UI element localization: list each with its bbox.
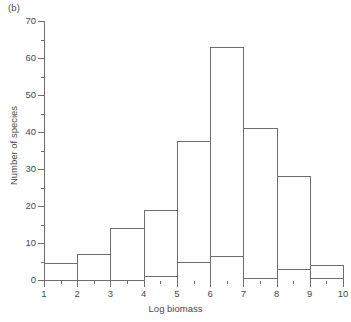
- x-tick-label-6: 6: [198, 288, 222, 299]
- y-tick-50: [38, 95, 44, 96]
- x-tick-label-5: 5: [165, 288, 189, 299]
- x-tick-label-1: 1: [32, 288, 56, 299]
- y-axis-line: [44, 21, 45, 281]
- bar-3-4: [110, 228, 144, 281]
- x-tick-label-10: 10: [331, 288, 351, 299]
- x-tick-label-8: 8: [265, 288, 289, 299]
- x-minor-tick-9.5: [326, 281, 327, 284]
- stippled-bar-8-9: [277, 269, 311, 281]
- x-tick-label-2: 2: [65, 288, 89, 299]
- y-axis-title: Number of species: [8, 76, 19, 216]
- x-minor-tick-6.5: [227, 281, 228, 284]
- y-tick-40: [38, 132, 44, 133]
- x-tick-8: [277, 281, 278, 287]
- y-tick-20: [38, 206, 44, 207]
- y-minor-tick-65: [41, 40, 44, 41]
- x-minor-tick-1.5: [61, 281, 62, 284]
- histogram-plot-area: 010203040506070 12345678910 Log biomass …: [0, 0, 351, 322]
- y-tick-label-10: 10: [4, 237, 36, 248]
- x-tick-5: [177, 281, 178, 287]
- x-tick-label-9: 9: [298, 288, 322, 299]
- x-minor-tick-3.5: [127, 281, 128, 284]
- y-tick-30: [38, 169, 44, 170]
- stippled-bar-9-10: [310, 278, 344, 281]
- y-minor-tick-35: [41, 151, 44, 152]
- y-tick-label-60: 60: [4, 52, 36, 63]
- y-tick-label-0: 0: [4, 274, 36, 285]
- bar-5-6: [177, 141, 211, 281]
- y-minor-tick-5: [41, 262, 44, 263]
- bar-4-5: [144, 210, 178, 281]
- x-minor-tick-7.5: [260, 281, 261, 284]
- y-minor-tick-15: [41, 225, 44, 226]
- x-minor-tick-8.5: [293, 281, 294, 284]
- y-tick-60: [38, 58, 44, 59]
- x-tick-9: [310, 281, 311, 287]
- x-minor-tick-2.5: [94, 281, 95, 284]
- x-tick-4: [144, 281, 145, 287]
- stippled-bar-6-7: [210, 256, 244, 281]
- x-tick-label-3: 3: [98, 288, 122, 299]
- bar-8-9: [277, 176, 311, 281]
- bar-7-8: [243, 128, 277, 281]
- bar-6-7: [210, 47, 244, 281]
- x-tick-2: [77, 281, 78, 287]
- bar-2-3: [77, 254, 111, 281]
- y-tick-70: [38, 21, 44, 22]
- x-tick-label-7: 7: [231, 288, 255, 299]
- x-tick-1: [44, 281, 45, 287]
- stippled-bar-5-6: [177, 262, 211, 282]
- y-minor-tick-25: [41, 188, 44, 189]
- x-minor-tick-5.5: [194, 281, 195, 284]
- stippled-bar-7-8: [243, 278, 277, 281]
- x-tick-label-4: 4: [132, 288, 156, 299]
- stippled-bar-4-5: [144, 276, 178, 281]
- x-tick-6: [210, 281, 211, 287]
- x-minor-tick-4.5: [160, 281, 161, 284]
- y-tick-label-70: 70: [4, 15, 36, 26]
- x-tick-3: [110, 281, 111, 287]
- y-tick-10: [38, 243, 44, 244]
- y-minor-tick-45: [41, 114, 44, 115]
- figure-panel-b: (b) 010203040506070 12345678910 Log biom…: [0, 0, 351, 322]
- x-tick-10: [343, 281, 344, 287]
- x-tick-7: [243, 281, 244, 287]
- bar-1-2: [44, 263, 78, 281]
- y-minor-tick-55: [41, 77, 44, 78]
- x-axis-title: Log biomass: [0, 303, 351, 314]
